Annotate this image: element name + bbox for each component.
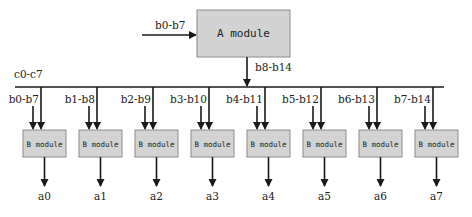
a-module-output-label: b8-b14 [255,61,292,73]
a-module: A module [197,10,290,57]
a-module-input-label: b0-b7 [155,19,185,31]
b-module-unit: b7-b14B modulea7 [394,87,458,202]
a-module-label: A module [217,27,270,40]
b-module-input-label: b4-b11 [226,93,263,105]
b-module-output-label: a5 [318,190,331,202]
b-module-unit: b5-b12B modulea5 [282,87,346,202]
b-module-input-label: b7-b14 [394,93,431,105]
b-module-unit: b6-b13B modulea6 [338,87,402,202]
b-module-label: B module [418,140,455,149]
b-module-input-label: b3-b10 [170,93,207,105]
b-module-output-label: a2 [150,190,163,202]
b-module-output-label: a7 [430,190,443,202]
b-module-label: B module [362,140,399,149]
b-module-unit: b4-b11B modulea4 [226,87,290,202]
b-module-unit: b3-b10B modulea3 [170,87,234,202]
module-diagram: b0-b7 A module b8-b14 c0-c7 b0-b7B modul… [0,0,472,217]
b-module-output-label: a0 [38,190,51,202]
b-module-unit: b1-b8B modulea1 [65,87,122,202]
b-module-output-label: a3 [206,190,219,202]
b-module-input-label: b2-b9 [121,93,151,105]
b-module-input-label: b6-b13 [338,93,375,105]
b-module-label: B module [26,140,63,149]
bus-label: c0-c7 [14,68,43,80]
b-module-output-label: a6 [374,190,387,202]
b-module-label: B module [138,140,175,149]
b-module-label: B module [250,140,287,149]
b-module-input-label: b5-b12 [282,93,319,105]
b-module-group: b0-b7B modulea0b1-b8B modulea1b2-b9B mod… [9,87,458,202]
b-module-input-label: b1-b8 [65,93,95,105]
b-module-input-label: b0-b7 [9,93,39,105]
b-module-label: B module [306,140,343,149]
b-module-label: B module [194,140,231,149]
b-module-output-label: a4 [262,190,275,202]
b-module-output-label: a1 [94,190,107,202]
b-module-label: B module [82,140,119,149]
b-module-unit: b0-b7B modulea0 [9,87,66,202]
